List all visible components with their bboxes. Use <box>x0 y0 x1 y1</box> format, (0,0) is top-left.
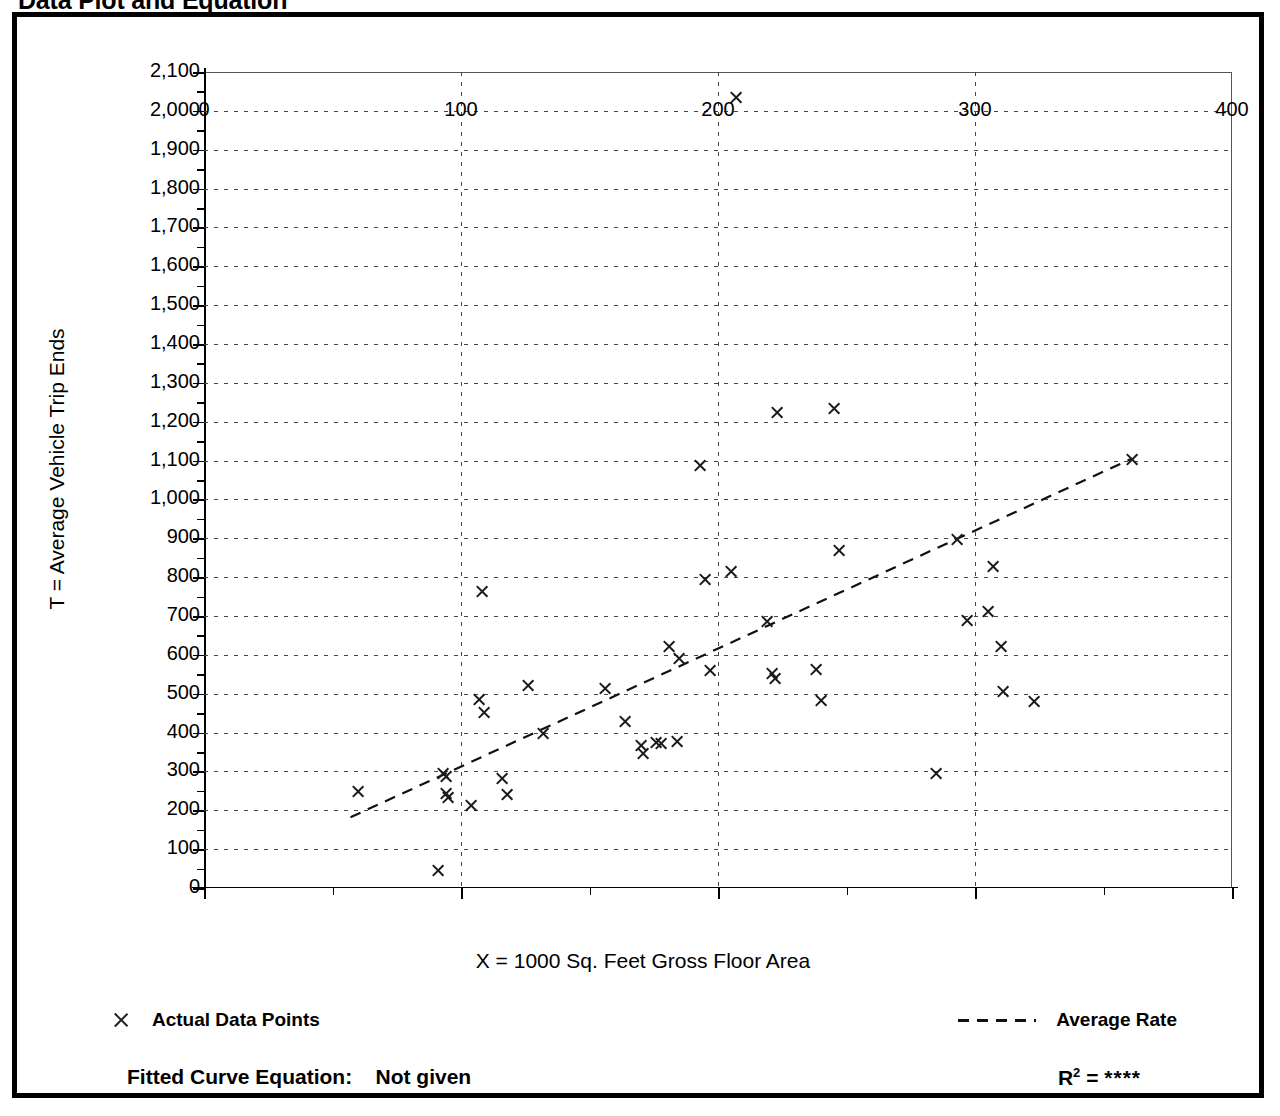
average-rate-trendline <box>204 72 1232 888</box>
data-point <box>728 90 743 105</box>
y-axis-minor-tick <box>197 286 204 288</box>
y-axis-tick-label: 1,000 <box>80 486 200 509</box>
y-axis-minor-tick <box>197 713 204 715</box>
data-point <box>438 769 453 784</box>
chart-legend: Actual Data Points Average Rate <box>17 1009 1269 1049</box>
y-axis-tick-label: 500 <box>80 681 200 704</box>
x-axis-tick <box>461 888 463 899</box>
data-point <box>831 543 846 558</box>
y-axis-minor-tick <box>197 325 204 327</box>
legend-label-actual-data-points: Actual Data Points <box>152 1009 320 1031</box>
data-point <box>996 684 1011 699</box>
r-squared-equals: = <box>1086 1066 1098 1089</box>
y-axis-minor-tick <box>197 869 204 871</box>
data-point <box>985 559 1000 574</box>
x-axis-minor-tick <box>1104 888 1106 895</box>
x-axis-minor-tick <box>333 888 335 895</box>
r-squared-stars: **** <box>1104 1066 1141 1089</box>
y-axis-minor-tick <box>197 441 204 443</box>
data-point <box>950 532 965 547</box>
data-point <box>808 662 823 677</box>
y-axis-minor-tick <box>197 363 204 365</box>
data-point <box>1027 694 1042 709</box>
x-axis-tick <box>975 888 977 899</box>
data-point <box>723 564 738 579</box>
data-point <box>536 726 551 741</box>
legend-item-average-rate: Average Rate <box>958 1009 1177 1031</box>
data-point <box>767 671 782 686</box>
data-point <box>495 771 510 786</box>
y-axis-tick-label: 700 <box>80 603 200 626</box>
data-point <box>698 572 713 587</box>
y-axis-tick-label: 200 <box>80 797 200 820</box>
y-axis-minor-tick <box>197 752 204 754</box>
x-marker-icon <box>112 1011 130 1029</box>
y-axis-tick-label: 600 <box>80 642 200 665</box>
r-squared-exponent: 2 <box>1073 1065 1080 1080</box>
data-point <box>597 681 612 696</box>
x-axis-tick <box>1232 888 1234 899</box>
data-point <box>693 458 708 473</box>
fitted-curve-equation: Fitted Curve Equation: Not given <box>127 1065 471 1089</box>
data-point <box>993 639 1008 654</box>
data-point <box>654 736 669 751</box>
legend-item-actual-data-points: Actual Data Points <box>112 1009 320 1031</box>
y-axis-minor-tick <box>197 558 204 560</box>
data-point <box>500 787 515 802</box>
y-axis-tick-label: 1,300 <box>80 370 200 393</box>
y-axis-minor-tick <box>197 91 204 93</box>
y-axis-tick-label: 2,100 <box>80 59 200 82</box>
data-point <box>477 705 492 720</box>
fitted-curve-value: Not given <box>376 1065 472 1088</box>
y-axis-tick-label: 0 <box>80 875 200 898</box>
r-squared-value: R2 = **** <box>1058 1065 1141 1090</box>
data-point <box>672 651 687 666</box>
y-axis-minor-tick <box>197 635 204 637</box>
x-axis-title: X = 1000 Sq. Feet Gross Floor Area <box>17 949 1269 973</box>
y-axis-title: T = Average Vehicle Trip Ends <box>45 119 69 819</box>
y-axis-tick-label: 800 <box>80 564 200 587</box>
y-axis-tick-label: 1,400 <box>80 331 200 354</box>
fitted-curve-label: Fitted Curve Equation: <box>127 1065 352 1088</box>
y-axis-minor-tick <box>197 130 204 132</box>
x-axis-tick <box>718 888 720 899</box>
x-axis-minor-tick <box>590 888 592 895</box>
legend-label-average-rate: Average Rate <box>1056 1009 1177 1031</box>
y-axis-minor-tick <box>197 519 204 521</box>
data-point <box>770 405 785 420</box>
y-axis-minor-tick <box>197 674 204 676</box>
data-point <box>430 863 445 878</box>
chart-footer: Fitted Curve Equation: Not given R2 = **… <box>17 1065 1269 1111</box>
data-point <box>759 614 774 629</box>
y-axis-minor-tick <box>197 208 204 210</box>
data-point <box>464 798 479 813</box>
dashed-line-icon <box>958 1019 1036 1022</box>
data-point <box>351 784 366 799</box>
y-axis-minor-tick <box>197 791 204 793</box>
y-axis-tick-label: 1,200 <box>80 409 200 432</box>
y-axis-tick-label: 1,600 <box>80 253 200 276</box>
y-axis-tick-label: 1,500 <box>80 292 200 315</box>
y-axis-tick-label: 1,900 <box>80 137 200 160</box>
data-point <box>826 401 841 416</box>
data-point <box>520 678 535 693</box>
data-point <box>441 790 456 805</box>
y-axis-minor-tick <box>197 169 204 171</box>
data-point <box>813 693 828 708</box>
y-axis-tick-label: 1,100 <box>80 448 200 471</box>
x-axis-tick <box>204 888 206 899</box>
y-axis-tick-label: 300 <box>80 758 200 781</box>
y-axis-tick-label: 1,800 <box>80 176 200 199</box>
plot-area: 01002003004005006007008009001,0001,1001,… <box>204 72 1232 888</box>
r-squared-symbol: R <box>1058 1066 1073 1089</box>
plot-wrapper: T = Average Vehicle Trip Ends 0100200300… <box>17 17 1269 1103</box>
y-axis-tick-label: 1,700 <box>80 214 200 237</box>
data-point <box>703 663 718 678</box>
data-point <box>960 613 975 628</box>
y-axis-minor-tick <box>197 830 204 832</box>
y-axis-minor-tick <box>197 402 204 404</box>
figure-frame: T = Average Vehicle Trip Ends 0100200300… <box>12 12 1264 1098</box>
data-point <box>669 734 684 749</box>
y-axis-minor-tick <box>197 597 204 599</box>
y-axis-tick-label: 100 <box>80 836 200 859</box>
